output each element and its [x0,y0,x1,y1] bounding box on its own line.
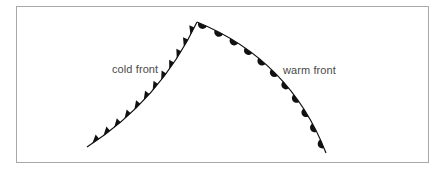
semicircle-icon [281,81,289,89]
warm-front-line [197,22,326,153]
cold-front-label: cold front [112,63,158,75]
warm-front-semicircle-icons [198,22,324,148]
weather-fronts-diagram [0,0,448,171]
semicircle-icon [292,94,299,102]
semicircle-icon [198,22,207,28]
warm-front-label: warm front [283,64,336,76]
semicircle-icon [257,58,265,66]
triangle-icon [114,118,120,127]
cold-front-triangle-icons [92,25,194,143]
triangle-icon [92,135,99,144]
semicircle-icon [244,48,252,55]
semicircle-icon [318,140,324,149]
semicircle-icon [270,69,278,77]
triangle-icon [103,127,110,136]
cold-front-line [87,22,197,147]
